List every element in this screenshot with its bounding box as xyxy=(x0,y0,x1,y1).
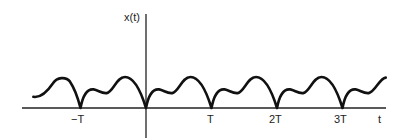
y-axis-label: x(t) xyxy=(124,11,140,23)
tick-label-2T: 2T xyxy=(269,113,282,125)
tick-label-3T: 3T xyxy=(334,113,347,125)
signal-curve xyxy=(33,77,385,108)
tick-label-T: T xyxy=(207,113,214,125)
tick-label-minus-T: −T xyxy=(71,113,84,125)
x-axis-label: t xyxy=(378,113,381,125)
